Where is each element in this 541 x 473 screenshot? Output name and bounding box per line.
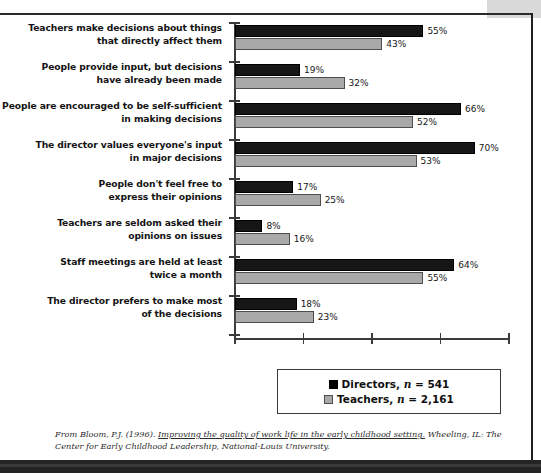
y-axis-tick [229, 295, 240, 297]
chart-page: Teachers make decisions about thingsthat… [0, 0, 541, 473]
category-label: People don't feel free toexpress their o… [0, 178, 222, 203]
category-label-line: twice a month [0, 269, 222, 282]
bar-value-label: 64% [458, 260, 478, 270]
y-axis-tick [229, 61, 240, 63]
page-rule-top [0, 13, 533, 15]
bar-directors [235, 25, 423, 37]
legend-item: Teachers, n = 2,161 [324, 393, 454, 405]
bar-directors [235, 103, 461, 115]
category-label-line: People don't feel free to [0, 178, 222, 191]
bar-value-label: 43% [386, 39, 406, 49]
category-label-line: The director prefers to make most [0, 295, 222, 308]
chart-legend: Directors, n = 541Teachers, n = 2,161 [277, 369, 501, 414]
bar-directors [235, 259, 454, 271]
chart-row: People don't feel free toexpress their o… [0, 178, 531, 217]
page-rule-right [531, 13, 533, 462]
y-axis-tick [229, 22, 240, 24]
category-label: Teachers are seldom asked theiropinions … [0, 217, 222, 242]
x-axis-tick [234, 333, 236, 344]
y-axis-tick [229, 100, 240, 102]
category-label-line: Staff meetings are held at least [0, 256, 222, 269]
legend-label: Directors, n = 541 [342, 378, 450, 390]
category-label: Staff meetings are held at leasttwice a … [0, 256, 222, 281]
y-axis-tick [229, 178, 240, 180]
bar-value-label: 66% [465, 104, 485, 114]
bar-group: 64%55% [235, 256, 531, 295]
bar-teachers [235, 116, 413, 128]
x-axis-tick [303, 333, 305, 344]
bar-value-label: 32% [349, 78, 369, 88]
page-rule-bottom-highlight [0, 464, 541, 467]
bar-value-label: 16% [294, 234, 314, 244]
bar-teachers [235, 233, 290, 245]
bar-value-label: 23% [318, 312, 338, 322]
bar-teachers [235, 272, 423, 284]
bar-group: 18%23% [235, 295, 531, 334]
bar-teachers [235, 194, 321, 206]
category-label: The director prefers to make mostof the … [0, 295, 222, 320]
bar-directors [235, 298, 297, 310]
category-label-line: in major decisions [0, 152, 222, 165]
category-label-line: of the decisions [0, 308, 222, 321]
citation-publisher-city: Wheeling, IL: [428, 429, 484, 439]
bar-group: 19%32% [235, 61, 531, 100]
bar-value-label: 55% [427, 26, 447, 36]
bar-value-label: 18% [301, 299, 321, 309]
bar-group: 70%53% [235, 139, 531, 178]
bar-teachers [235, 311, 314, 323]
bar-chart: Teachers make decisions about thingsthat… [0, 22, 531, 362]
category-label: Teachers make decisions about thingsthat… [0, 22, 222, 47]
legend-label: Teachers, n = 2,161 [337, 393, 454, 405]
category-label-line: People provide input, but decisions [0, 61, 222, 74]
bar-directors [235, 142, 475, 154]
bar-teachers [235, 155, 417, 167]
y-axis-tick [229, 256, 240, 258]
chart-row: People provide input, but decisionshave … [0, 61, 531, 100]
bar-value-label: 55% [427, 273, 447, 283]
y-axis-tick [229, 217, 240, 219]
category-label-line: Teachers make decisions about things [0, 22, 222, 35]
x-axis-tick [440, 333, 442, 344]
chart-row: Staff meetings are held at leasttwice a … [0, 256, 531, 295]
x-axis-tick [508, 333, 510, 344]
bar-value-label: 19% [304, 65, 324, 75]
bar-value-label: 17% [297, 182, 317, 192]
category-label-line: Teachers are seldom asked their [0, 217, 222, 230]
category-label-line: express their opinions [0, 191, 222, 204]
bar-group: 17%25% [235, 178, 531, 217]
bar-group: 55%43% [235, 22, 531, 61]
x-axis-tick [371, 333, 373, 344]
y-axis-tick [229, 139, 240, 141]
source-citation: From Bloom, P.J. (1996). Improving the q… [55, 428, 505, 452]
bar-directors [235, 220, 262, 232]
legend-swatch-dir [329, 380, 338, 389]
bar-group: 8%16% [235, 217, 531, 256]
category-label-line: in making decisions [0, 113, 222, 126]
bar-directors [235, 181, 293, 193]
legend-swatch-tea [324, 395, 333, 404]
category-label-line: People are encouraged to be self-suffici… [0, 100, 222, 113]
bar-directors [235, 64, 300, 76]
citation-lead: From Bloom, P.J. (1996). [55, 429, 155, 439]
bar-value-label: 25% [325, 195, 345, 205]
bar-value-label: 53% [421, 156, 441, 166]
bar-value-label: 70% [479, 143, 499, 153]
chart-row: Teachers make decisions about thingsthat… [0, 22, 531, 61]
chart-row: People are encouraged to be self-suffici… [0, 100, 531, 139]
category-label-line: opinions on issues [0, 230, 222, 243]
bar-value-label: 8% [266, 221, 280, 231]
category-label-line: have already been made [0, 74, 222, 87]
bar-teachers [235, 38, 382, 50]
category-label-line: that directly affect them [0, 35, 222, 48]
chart-row: The director values everyone's inputin m… [0, 139, 531, 178]
category-label: People provide input, but decisionshave … [0, 61, 222, 86]
chart-row: The director prefers to make mostof the … [0, 295, 531, 334]
category-label: The director values everyone's inputin m… [0, 139, 222, 164]
bar-teachers [235, 77, 345, 89]
bar-group: 66%52% [235, 100, 531, 139]
category-label-line: The director values everyone's input [0, 139, 222, 152]
bar-value-label: 52% [417, 117, 437, 127]
chart-row: Teachers are seldom asked theiropinions … [0, 217, 531, 256]
citation-work-title: Improving the quality of work life in th… [158, 429, 425, 439]
legend-item: Directors, n = 541 [329, 378, 450, 390]
